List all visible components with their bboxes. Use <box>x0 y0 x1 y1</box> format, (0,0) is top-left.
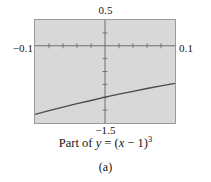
x-max-label: 0.1 <box>179 42 210 54</box>
graph-canvas <box>35 20 175 123</box>
caption-equals: = ( <box>101 136 118 150</box>
caption-exponent: 3 <box>148 134 152 144</box>
figure-container: 0.5 −0.1 0.1 <box>0 0 211 182</box>
y-max-label: 0.5 <box>0 4 211 16</box>
caption-prefix: Part of <box>59 136 96 150</box>
graph-plot-window <box>34 19 176 124</box>
y-axis-group <box>103 20 108 123</box>
figure-caption: Part of y = (x − 1)3 <box>0 136 211 151</box>
y-min-label: −1.5 <box>0 124 211 136</box>
subfigure-label: (a) <box>0 160 211 174</box>
caption-expression-tail: − 1) <box>124 136 148 150</box>
x-min-label: −0.1 <box>2 42 33 54</box>
